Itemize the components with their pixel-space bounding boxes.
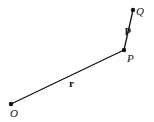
label-p-vector: p <box>125 23 131 35</box>
point-o <box>9 102 13 106</box>
label-o: O <box>10 107 18 119</box>
point-q <box>131 8 135 12</box>
label-q: Q <box>136 5 144 17</box>
vector-diagram: O P Q r p <box>0 0 154 122</box>
label-r: r <box>69 77 74 89</box>
segment-r <box>11 50 124 104</box>
point-p <box>122 48 126 52</box>
label-p: P <box>126 52 134 64</box>
